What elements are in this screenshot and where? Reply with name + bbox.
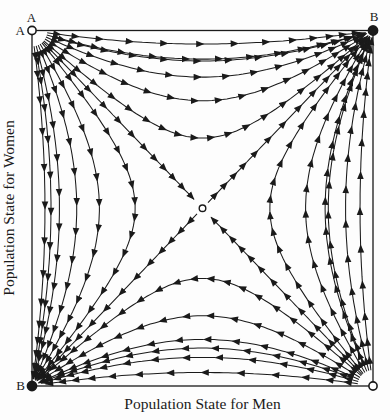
streamline-arrow [178,224,188,234]
streamline-arrow [42,308,45,329]
streamline-arrow [75,176,77,206]
streamline-arrow [201,76,230,77]
streamline-arrow [305,75,321,88]
streamline-arrow [366,72,368,88]
streamline-arrow [45,314,49,334]
streamline-arrow [167,130,183,135]
streamline-arrow [65,88,75,108]
streamline-arrow [277,245,285,263]
streamline-arrow [36,345,38,358]
streamline-arrow [46,382,59,384]
streamline-arrow [47,333,53,348]
streamline-arrow [270,195,271,212]
streamline-arrow [215,133,233,138]
streamline-arrow [51,179,52,215]
streamline-arrow [325,169,328,197]
streamline-arrow [230,318,253,324]
streamline-arrow [43,136,45,172]
streamline-arrow [135,373,166,375]
streamline-arrow [147,151,157,162]
streamline-arrow [348,255,352,288]
streamline-arrow [346,220,348,255]
streamline-arrow [120,154,128,172]
streamline-arrow [273,305,290,317]
streamline-arrow [147,254,159,266]
streamline-arrow [204,43,239,44]
streamline-arrow [320,113,329,135]
streamline-arrow [133,42,168,44]
streamline-arrow [48,250,50,281]
streamline-arrow [361,245,363,281]
streamline-arrow [299,361,322,368]
streamline-arrow [50,74,57,94]
streamline-arrow [356,343,362,359]
streamline-arrow [76,43,98,48]
streamline-arrow [270,279,284,293]
streamline-arrow [329,94,338,113]
streamline-arrow [94,57,118,65]
streamline-arrow [199,100,223,101]
streamline-arrow [129,85,152,93]
streamline-arrow [145,71,173,76]
streamline-arrow [49,291,53,315]
streamline-arrow [108,375,135,377]
streamline-arrow [360,171,361,207]
streamline-arrow [302,377,326,380]
streamline-arrow [42,85,46,112]
streamline-arrow [74,49,94,56]
streamline-arrow [326,380,344,382]
streamline-arrow [343,311,351,334]
streamline-arrow [66,373,80,377]
streamline-arrow [128,172,133,189]
streamline-arrow [317,36,333,38]
streamline-arrow [331,308,341,328]
streamline-arrow [204,339,232,341]
streamline-arrow [258,266,270,279]
streamline-arrow [42,335,45,349]
streamline-arrow [237,373,272,375]
streamline-arrow [60,66,72,82]
streamline-arrow [91,92,107,108]
streamline-arrow [187,214,197,224]
streamline-arrow [102,357,125,363]
streamline-arrow [369,356,371,370]
streamline-arrow [328,141,333,169]
streamline-arrow [75,327,88,341]
streamline-arrow [74,109,84,133]
streamline-arrow [44,209,45,245]
equilibrium-top-left-marker [28,26,36,34]
streamline-arrow [298,308,314,324]
streamline-arrow [258,66,283,72]
streamline-arrow [88,377,109,379]
streamline-arrow [49,101,54,129]
streamline-arrow [308,300,321,318]
streamline-arrow [55,353,64,363]
streamline-arrow [121,124,135,138]
streamline-arrow [56,345,65,357]
streamline-arrow [60,290,66,313]
corner-label-bottom-left-side: B [16,378,25,393]
streamline-arrow [238,246,247,256]
streamline-arrow [147,341,175,345]
streamline-arrow [275,159,282,177]
streamline-arrow [39,306,41,328]
streamline-arrow [308,235,313,260]
streamline-arrow [72,379,88,381]
streamline-arrow [70,54,87,64]
streamline-arrow [59,323,67,339]
streamline-arrow [137,292,155,303]
streamline-arrow [167,373,202,374]
streamline-arrow [269,78,291,87]
streamline-arrow [151,358,182,360]
streamline-arrow [292,122,304,141]
streamline-arrow [92,156,97,181]
streamline-arrow [88,295,101,314]
streamline-arrow [61,35,79,37]
streamline-arrow [341,328,350,345]
streamline-arrow [356,316,361,340]
streamline-arrow [64,118,71,146]
streamline-arrow [344,382,358,384]
streamline-arrow [93,232,98,257]
streamline-arrow [218,182,228,192]
streamline-arrow [173,76,201,78]
